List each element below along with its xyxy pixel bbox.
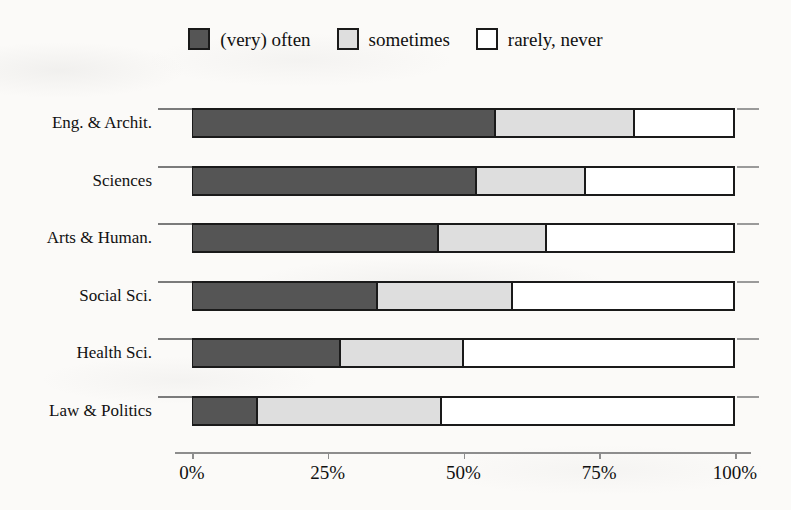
bar-row: Eng. & Archit. bbox=[192, 108, 735, 138]
legend-swatch-icon bbox=[188, 28, 210, 50]
category-tick bbox=[158, 338, 192, 340]
bar-segment bbox=[377, 281, 512, 311]
legend-label: sometimes bbox=[369, 30, 450, 49]
bar-segment bbox=[438, 223, 546, 253]
category-label: Social Sci. bbox=[79, 286, 152, 306]
x-axis-tick-label: 100% bbox=[713, 462, 757, 484]
bar-segment bbox=[634, 108, 735, 138]
category-label: Health Sci. bbox=[76, 343, 152, 363]
bar-row: Arts & Human. bbox=[192, 223, 735, 253]
legend-item: rarely, never bbox=[476, 28, 603, 50]
legend-swatch-icon bbox=[476, 28, 498, 50]
x-axis-tick bbox=[192, 452, 194, 459]
category-tick bbox=[158, 223, 192, 225]
bar-segment bbox=[463, 338, 735, 368]
bar-row: Law & Politics bbox=[192, 396, 735, 426]
category-tick-right bbox=[737, 396, 759, 398]
bar-segment bbox=[441, 396, 735, 426]
bar-segment bbox=[340, 338, 463, 368]
category-label: Eng. & Archit. bbox=[52, 113, 152, 133]
bar-segment bbox=[192, 338, 340, 368]
category-tick-right bbox=[737, 166, 759, 168]
bar-segment bbox=[192, 223, 438, 253]
bar-row: Health Sci. bbox=[192, 338, 735, 368]
x-axis-tick bbox=[328, 452, 330, 459]
x-axis-tick-label: 50% bbox=[446, 462, 481, 484]
category-tick bbox=[158, 281, 192, 283]
bar-row: Sciences bbox=[192, 166, 735, 196]
category-tick-right bbox=[737, 338, 759, 340]
bar-segment bbox=[192, 166, 476, 196]
bar-segment bbox=[585, 166, 735, 196]
x-axis-tick bbox=[735, 452, 737, 459]
x-axis-tick bbox=[599, 452, 601, 459]
x-axis-tick-label: 25% bbox=[310, 462, 345, 484]
category-tick-right bbox=[737, 223, 759, 225]
bar-row: Social Sci. bbox=[192, 281, 735, 311]
x-axis-tick-label: 75% bbox=[582, 462, 617, 484]
bar-segment bbox=[546, 223, 735, 253]
legend-item: sometimes bbox=[337, 28, 450, 50]
bar-segment bbox=[257, 396, 441, 426]
category-tick bbox=[158, 108, 192, 110]
bar-segment bbox=[495, 108, 634, 138]
bar-segment bbox=[476, 166, 585, 196]
x-axis-tick bbox=[464, 452, 466, 459]
category-label: Arts & Human. bbox=[47, 228, 152, 248]
category-label: Law & Politics bbox=[49, 401, 152, 421]
category-tick-right bbox=[737, 108, 759, 110]
x-axis-line bbox=[175, 452, 751, 454]
category-tick bbox=[158, 396, 192, 398]
bar-segment bbox=[192, 281, 377, 311]
x-axis-tick-label: 0% bbox=[179, 462, 204, 484]
legend-item: (very) often bbox=[188, 28, 310, 50]
category-label: Sciences bbox=[93, 171, 152, 191]
bar-segment bbox=[192, 108, 495, 138]
chart-legend: (very) oftensometimesrarely, never bbox=[0, 28, 791, 50]
category-tick bbox=[158, 166, 192, 168]
bar-segment bbox=[512, 281, 735, 311]
bar-segment bbox=[192, 396, 257, 426]
legend-label: (very) often bbox=[220, 30, 310, 49]
legend-swatch-icon bbox=[337, 28, 359, 50]
legend-label: rarely, never bbox=[508, 30, 603, 49]
plot-area: Eng. & Archit.SciencesArts & Human.Socia… bbox=[192, 100, 735, 440]
stacked-bar-chart: (very) oftensometimesrarely, never Eng. … bbox=[0, 0, 791, 510]
category-tick-right bbox=[737, 281, 759, 283]
